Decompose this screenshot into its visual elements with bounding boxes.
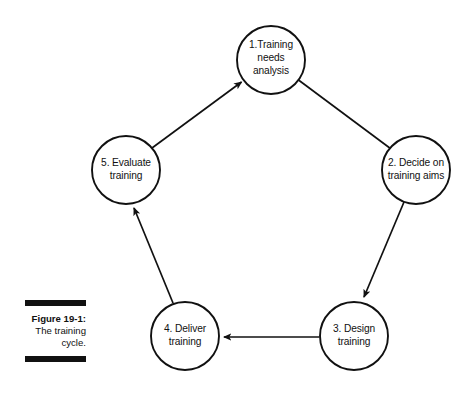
- node-label: training: [338, 336, 371, 347]
- arrow-group: [134, 80, 404, 337]
- node-label: 4. Deliver: [164, 323, 207, 334]
- node-design-training[interactable]: 3. Design training: [320, 302, 388, 370]
- node-label: 1.Training: [249, 39, 293, 50]
- node-label: 5. Evaluate: [101, 157, 151, 168]
- node-label: training: [110, 170, 143, 181]
- node-label: needs: [257, 52, 284, 63]
- arrow-4-to-5: [134, 208, 173, 303]
- arrow-5-to-1: [152, 82, 242, 148]
- node-label: analysis: [253, 65, 289, 76]
- node-label: 2. Decide on: [388, 157, 444, 168]
- caption-rule-top: [25, 300, 86, 306]
- caption-rule-bottom: [25, 356, 86, 362]
- arrow-1-to-2: [299, 80, 397, 153]
- arrow-2-to-3: [364, 202, 404, 297]
- figure-caption-line-2: cycle.: [25, 337, 86, 349]
- node-training-needs-analysis[interactable]: 1.Training needs analysis: [237, 26, 305, 94]
- figure-caption-text: Figure 19-1: The training cycle.: [25, 313, 86, 350]
- node-evaluate-training[interactable]: 5. Evaluate training: [92, 136, 160, 204]
- figure-container: 1.Training needs analysis 2. Decide on t…: [0, 0, 476, 400]
- node-label: training aims: [388, 170, 444, 181]
- node-label: 3. Design: [333, 323, 375, 334]
- figure-number-label: Figure 19-1:: [25, 313, 86, 325]
- figure-caption-block: Figure 19-1: The training cycle.: [25, 300, 86, 362]
- node-deliver-training[interactable]: 4. Deliver training: [151, 302, 219, 370]
- figure-caption-line-1: The training: [25, 325, 86, 337]
- node-label: training: [169, 336, 202, 347]
- node-decide-on-training-aims[interactable]: 2. Decide on training aims: [382, 136, 450, 204]
